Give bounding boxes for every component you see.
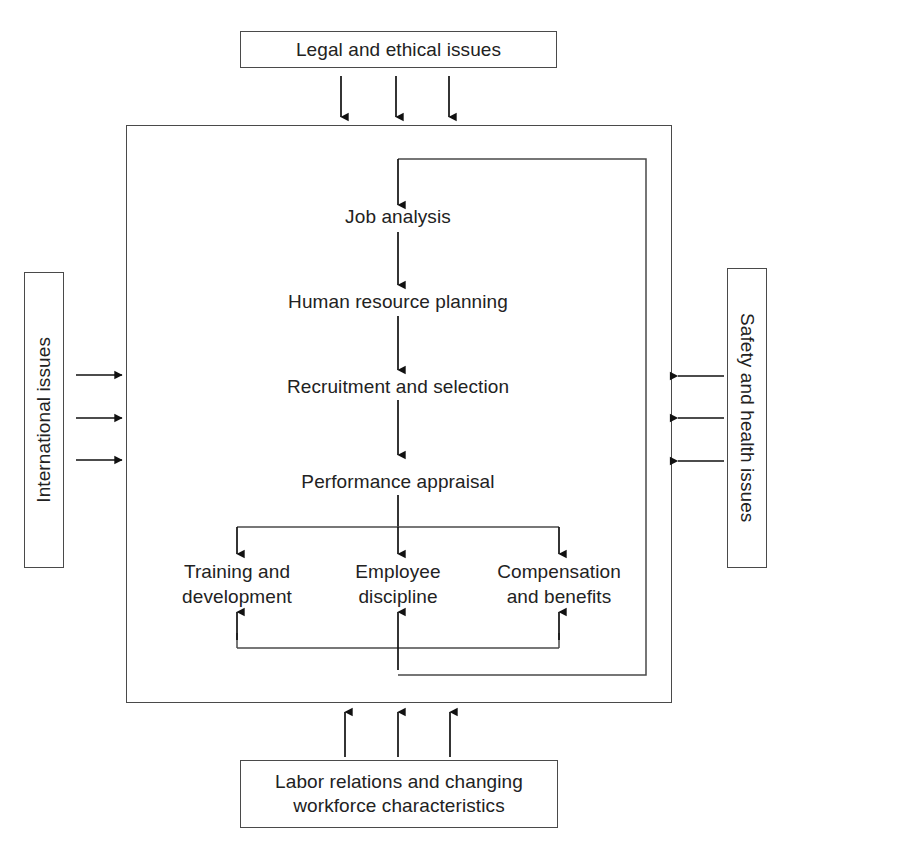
process-step-recruitment-and-selection: Recruitment and selection: [198, 375, 598, 400]
top-external-arrows: [341, 76, 449, 117]
branch-step-label-line1: Compensation: [479, 560, 639, 585]
diagram-canvas: Legal and ethical issues International i…: [0, 0, 898, 854]
connectors-layer: [0, 0, 898, 854]
branch-up-arrows: [237, 612, 559, 670]
process-step-human-resource-planning: Human resource planning: [198, 290, 598, 315]
branch-step-compensation-and-benefits: Compensation and benefits: [479, 560, 639, 609]
process-step-performance-appraisal: Performance appraisal: [198, 470, 598, 495]
branch-step-label-line1: Training and: [157, 560, 317, 585]
process-step-label: Performance appraisal: [301, 471, 494, 492]
process-step-label: Human resource planning: [288, 291, 508, 312]
process-step-label: Job analysis: [345, 206, 451, 227]
branch-step-label-line1: Employee: [328, 560, 468, 585]
process-step-job-analysis: Job analysis: [198, 205, 598, 230]
branch-step-label-line2: development: [157, 585, 317, 610]
branch-step-label-line2: discipline: [328, 585, 468, 610]
branch-step-label-line2: and benefits: [479, 585, 639, 610]
left-external-arrows: [76, 375, 122, 460]
right-external-arrows: [678, 376, 724, 461]
branch-step-training-and-development: Training and development: [157, 560, 317, 609]
branch-down-arrows: [237, 527, 559, 554]
branch-step-employee-discipline: Employee discipline: [328, 560, 468, 609]
bottom-external-arrows: [345, 712, 450, 757]
process-step-label: Recruitment and selection: [287, 376, 509, 397]
